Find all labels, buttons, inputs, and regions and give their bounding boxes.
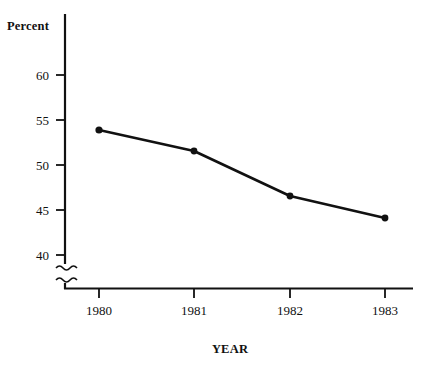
data-point-1983 [382,215,389,222]
data-point-1980 [95,126,102,133]
data-point-1981 [191,148,198,155]
y-tick-label-40: 40 [36,248,49,263]
x-tick-label-1982: 1982 [277,303,303,318]
data-point-1982 [287,193,294,200]
x-tick-label-1980: 1980 [86,303,112,318]
x-tick-label-1981: 1981 [181,303,207,318]
line-chart-figure: Percent 60 55 50 45 40 1980 1981 1982 19… [0,0,428,372]
y-tick-label-60: 60 [36,68,49,83]
y-tick-label-55: 55 [36,113,49,128]
y-tick-label-50: 50 [36,158,49,173]
x-axis-title: YEAR [212,342,249,356]
chart-canvas: Percent 60 55 50 45 40 1980 1981 1982 19… [0,0,428,372]
x-tick-label-1983: 1983 [372,303,398,318]
y-tick-label-45: 45 [36,203,49,218]
y-axis-title: Percent [7,19,50,33]
